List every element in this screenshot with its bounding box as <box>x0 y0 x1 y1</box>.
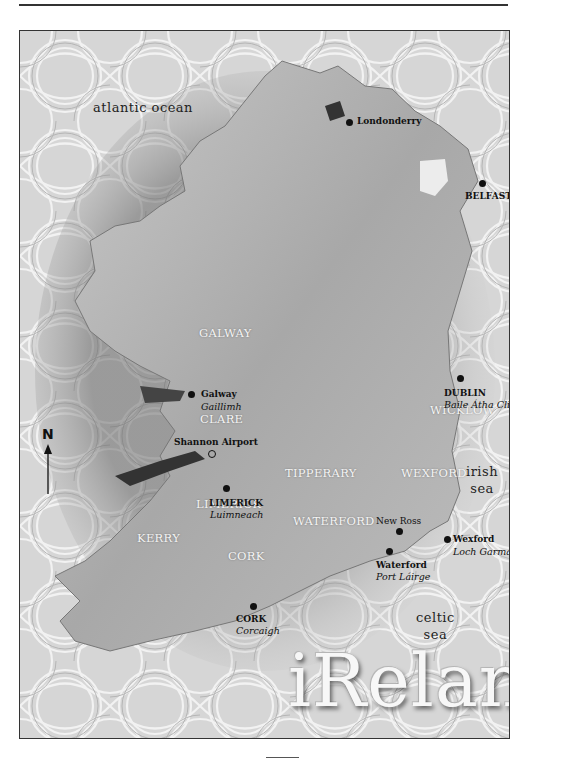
city-irish-label-wexford: Loch Garman <box>453 547 510 557</box>
map-frame: atlantic ocean irish sea celtic sea GALW… <box>19 30 510 739</box>
north-arrow-icon <box>42 426 62 496</box>
county-label-clare: CLARE <box>200 414 243 426</box>
city-marker-cork <box>250 603 257 610</box>
city-label-dublin: DUBLIN <box>444 389 486 398</box>
city-irish-label-galway: Gaillimh <box>201 402 242 412</box>
sea-label-atlantic: atlantic ocean <box>93 101 193 114</box>
footer-rule <box>266 757 299 758</box>
city-label-new-ross: New Ross <box>376 517 421 526</box>
city-label-wexford: Wexford <box>453 535 494 544</box>
north-arrow: N <box>42 426 62 496</box>
county-label-tipperary: TIPPERARY <box>285 468 357 480</box>
county-label-waterford: WATERFORD <box>293 516 375 528</box>
city-marker-new-ross <box>396 528 403 535</box>
city-marker-belfast <box>479 180 486 187</box>
city-label-londonderry: Londonderry <box>357 117 421 126</box>
city-marker-dublin <box>457 375 464 382</box>
city-marker-galway <box>188 391 195 398</box>
city-marker-wexford <box>444 536 451 543</box>
city-label-waterford: Waterford <box>376 561 427 570</box>
sea-label-irish: irish sea <box>466 465 498 495</box>
city-irish-label-waterford: Port Láirge <box>376 572 430 582</box>
sea-label-celtic: celtic sea <box>416 611 455 641</box>
city-marker-limerick <box>223 485 230 492</box>
sea-label-celtic-line1: celtic <box>416 611 455 624</box>
city-marker-waterford <box>386 548 393 555</box>
county-label-galway: GALWAY <box>199 328 252 340</box>
airport-marker-shannon <box>208 450 216 458</box>
city-irish-label-dublin: Baile Átha Cliath <box>444 400 510 410</box>
city-marker-londonderry <box>346 119 353 126</box>
city-label-cork: CORK <box>236 615 266 624</box>
city-irish-label-cork: Corcaigh <box>236 626 280 636</box>
sea-label-irish-line2: sea <box>466 482 498 495</box>
county-label-cork: CORK <box>228 551 265 563</box>
city-label-belfast: BELFAST <box>465 192 510 201</box>
city-label-limerick: LIMERICK <box>209 499 263 508</box>
county-label-kerry: KERRY <box>137 533 180 545</box>
county-label-wexford: WEXFORD <box>401 468 467 480</box>
header-rule <box>19 4 508 6</box>
city-irish-label-limerick: Luimneach <box>210 510 263 520</box>
sea-label-irish-line1: irish <box>466 465 498 478</box>
city-label-shannon-airport: Shannon Airport <box>174 438 258 447</box>
city-label-galway: Galway <box>201 390 237 399</box>
map-title: iReland <box>288 639 510 723</box>
